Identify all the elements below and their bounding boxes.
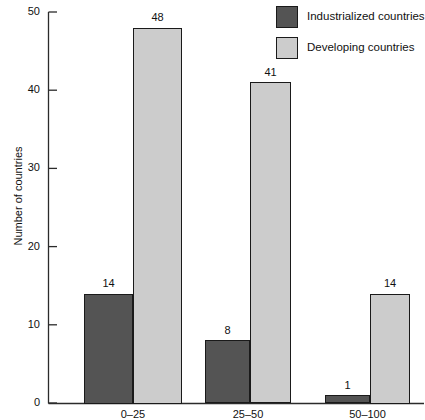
x-tick-label-0-25: 0–25 [84, 409, 182, 420]
chart-plot-area: Number of countries 50 40 30 20 10 0 14 … [0, 0, 425, 420]
bar-developing-25-50 [250, 82, 291, 403]
y-tick-label-40: 40 [14, 84, 40, 95]
bar-value-industrialized-50-100: 1 [325, 380, 370, 391]
y-tick-label-0: 0 [14, 397, 40, 408]
x-tick-label-25-50: 25–50 [205, 409, 291, 420]
bar-value-industrialized-25-50: 8 [205, 325, 250, 336]
y-tick-label-50: 50 [14, 6, 40, 17]
bar-value-developing-25-50: 41 [250, 67, 291, 78]
chart-page: Industrialized countries Developing coun… [0, 0, 425, 420]
bar-developing-50-100 [370, 294, 410, 404]
bar-value-developing-50-100: 14 [370, 278, 410, 289]
bar-value-industrialized-0-25: 14 [84, 278, 133, 289]
bar-industrialized-50-100 [325, 395, 370, 403]
y-tick-label-30: 30 [14, 162, 40, 173]
bar-industrialized-25-50 [205, 340, 250, 403]
bar-industrialized-0-25 [84, 294, 133, 404]
y-tick-label-10: 10 [14, 319, 40, 330]
y-tick-label-20: 20 [14, 241, 40, 252]
bar-developing-0-25 [133, 28, 182, 404]
x-tick-label-50-100: 50–100 [325, 409, 410, 420]
bar-value-developing-0-25: 48 [133, 12, 182, 23]
